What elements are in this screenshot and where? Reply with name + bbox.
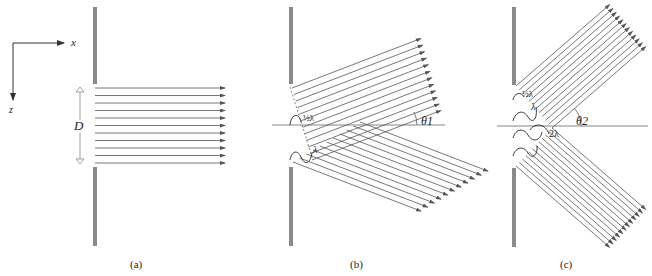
ray-arrow [353,126,481,175]
ray-arrow [347,130,475,179]
ray-arrow [536,28,630,109]
ray-arrow [299,65,428,114]
rays [95,5,648,248]
ray-arrow [552,47,646,128]
x-axis-label: x [71,36,76,48]
half-lambda-label: ½λ [303,113,314,123]
two-lambda-label: 2λ [549,128,559,139]
wavefront-dashed-line [290,87,313,160]
ray-arrow [536,145,630,226]
ray-arrow [306,154,434,203]
ray-arrow [293,162,421,211]
ray-arrow [516,5,610,86]
ray-arrow [313,150,441,199]
ray-arrow [310,104,439,153]
ray-arrow [519,8,613,89]
ray-arrow [545,39,639,120]
ray-arrow [532,149,626,230]
ray-arrow [539,31,633,112]
ray-arrow [327,142,455,191]
caption-b: (b) [350,258,363,270]
ray-arrow [529,20,623,101]
ray-arrow [526,156,620,237]
coordinate-axes [13,43,64,100]
ray-arrow [549,43,643,124]
aperture-label: D [74,118,83,134]
ray-arrow [320,146,448,195]
theta2-label: θ2 [576,114,588,129]
slit-wall-top [93,7,97,84]
slit-wall-top [289,7,293,84]
ray-arrow [308,97,437,146]
ray-arrow [539,142,633,223]
panel-c-annotations [513,93,581,156]
slit-wall-bottom [512,168,516,247]
ray-arrow [296,52,425,101]
ray-arrow [542,35,636,116]
half-lambda-label: ½λ [522,89,533,99]
caption-a: (a) [130,258,142,270]
ray-arrow [523,12,617,93]
lambda-label: λ [313,144,317,155]
wave-icon [513,146,537,156]
theta1-arc [414,112,417,125]
theta1-label: θ1 [421,114,433,129]
ray-arrow [340,134,468,183]
ray-arrow [333,138,461,187]
ray-arrow [292,39,421,88]
ray-arrow [301,71,430,120]
half-wave-icon [290,116,301,125]
ray-arrow [300,158,428,207]
full-wave-icon [290,152,312,163]
caption-c: (c) [560,258,572,270]
ray-arrow [360,122,488,171]
ray-arrow [297,58,426,107]
lambda-label: λ [531,101,535,112]
ray-arrow [532,24,626,105]
ray-arrow [526,16,620,97]
slit-wall-top [512,7,516,85]
ray-arrow [303,78,432,127]
wave-icon [513,130,542,140]
ray-arrow [294,45,423,94]
slit-wall-bottom [289,167,293,246]
ray-arrow [529,152,623,233]
z-axis-label: z [9,104,13,115]
ray-arrow [542,138,636,219]
ray-arrow [305,84,434,133]
slit-wall-bottom [93,167,97,246]
